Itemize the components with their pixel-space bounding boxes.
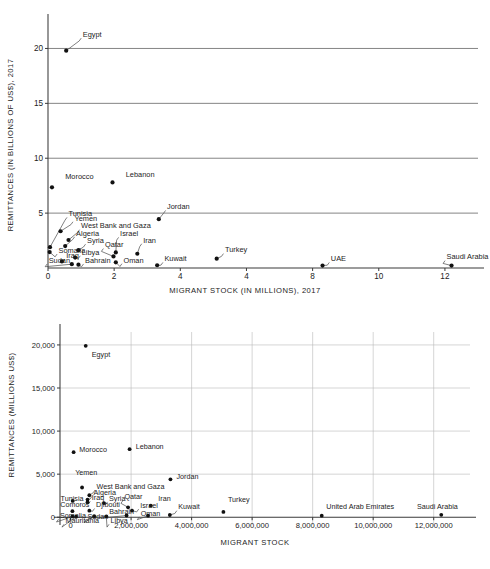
data-point-label: Iran: [143, 236, 156, 245]
data-point-label: Saudi Arabia: [417, 502, 458, 511]
data-point: [72, 450, 76, 454]
y-tick-label: 15: [34, 99, 44, 108]
data-point: [48, 250, 52, 254]
data-point-label: Turkey: [225, 245, 248, 254]
data-point-label: Iran: [158, 494, 170, 503]
x-tick-label: 12,000,000: [415, 521, 453, 530]
x-tick-label: 2: [112, 272, 117, 281]
data-point: [215, 257, 219, 261]
data-point-label: Turkey: [228, 495, 250, 504]
y-tick-label: 5,000: [36, 470, 55, 479]
data-point: [128, 447, 132, 451]
data-point: [449, 263, 453, 267]
data-point: [80, 486, 84, 490]
y-tick-label: 5: [38, 209, 43, 218]
leader-line: [61, 222, 73, 231]
top-gridlines: [48, 48, 478, 213]
data-point-label: Egypt: [92, 350, 110, 359]
x-tick-label: 4,000,000: [175, 521, 209, 530]
data-point: [76, 263, 80, 267]
data-point-label: United Arab Emirates: [326, 502, 394, 511]
x-tick-label: 8: [310, 272, 315, 281]
top-leader-lines: [45, 38, 451, 267]
data-point: [87, 493, 91, 497]
data-point: [110, 180, 114, 184]
data-point-label: Comoros: [60, 500, 90, 509]
y-tick-label: 20: [34, 44, 44, 53]
top-x-axis-title: MIGRANT STOCK (IN MILLIONS), 2017: [169, 286, 320, 295]
bottom-point-labels: EgyptMoroccoLebanonJordanYemenWest Bank …: [60, 350, 458, 526]
data-point: [114, 260, 118, 264]
data-point-label: Lebanon: [126, 170, 155, 179]
leader-line: [50, 217, 67, 247]
data-point-label: Syria: [87, 236, 105, 245]
data-point: [58, 229, 62, 233]
y-tick-label: 10: [34, 154, 44, 163]
data-point: [320, 263, 324, 267]
data-point-label: Oman: [141, 509, 161, 518]
y-tick-label: 10,000: [32, 427, 55, 436]
data-point-label: Israel: [120, 229, 138, 238]
data-point: [157, 217, 161, 221]
x-tick-label: 10,000,000: [354, 521, 392, 530]
data-point: [169, 477, 173, 481]
data-point-label: Bahrain: [85, 256, 110, 265]
x-tick-label: 4: [244, 272, 249, 281]
top-point-labels: EgyptMoroccoLebanonJordanTunisiaYemenWes…: [49, 30, 490, 265]
data-point-label: Kuwait: [164, 254, 186, 263]
bottom-scatter-svg: 02,000,0004,000,0006,000,0008,000,00010,…: [0, 300, 490, 569]
data-point-label: Jordan: [176, 472, 198, 481]
data-point-label: Yemen: [75, 468, 97, 477]
x-tick-label: 6,000,000: [235, 521, 269, 530]
x-tick-label: 4: [178, 272, 183, 281]
data-point: [168, 513, 172, 517]
data-point: [66, 238, 70, 242]
bottom-y-axis-title: REMITTANCES (MILLIONS US$): [7, 352, 16, 477]
top-y-axis-title: REMITTANCES (IN BILLIONS OF US$), 2017: [6, 59, 15, 232]
data-point: [84, 344, 88, 348]
data-point: [114, 250, 118, 254]
data-point-label: Morocco: [65, 172, 93, 181]
data-point-label: Mauritania: [65, 516, 99, 525]
data-point-label: Saudi Arabia: [447, 252, 490, 261]
data-point: [155, 263, 159, 267]
data-point-label: Qatar: [105, 240, 124, 249]
data-point-label: Jordan: [167, 202, 190, 211]
data-point-label: Egypt: [83, 30, 102, 39]
bottom-x-axis-title: MIGRANT STOCK: [221, 538, 290, 547]
x-tick-label: 0: [46, 272, 51, 281]
data-point-label: Bahrain: [109, 507, 134, 516]
data-point-label: Oman: [123, 256, 143, 265]
x-tick-label: 8,000,000: [296, 521, 330, 530]
data-point-label: Kuwait: [178, 502, 200, 511]
data-point: [48, 245, 52, 249]
data-point: [439, 513, 443, 517]
data-point-label: UAE: [331, 254, 346, 263]
data-point: [64, 49, 68, 53]
data-point: [111, 254, 115, 258]
data-point-label: Lebanon: [136, 442, 164, 451]
top-scatter-figure: 0244810125101520 EgyptMoroccoLebanonJord…: [0, 0, 490, 300]
data-point: [70, 262, 74, 266]
data-point: [50, 185, 54, 189]
y-tick-label: 15,000: [32, 384, 55, 393]
y-tick-label: 0: [51, 513, 55, 522]
x-tick-label: 12: [440, 272, 450, 281]
data-point-label: Morocco: [79, 445, 107, 454]
data-point: [221, 510, 225, 514]
data-point-label: Sudan: [49, 256, 70, 265]
y-tick-label: 20,000: [32, 341, 55, 350]
bottom-scatter-figure: 02,000,0004,000,0006,000,0008,000,00010,…: [0, 300, 490, 569]
top-scatter-svg: 0244810125101520 EgyptMoroccoLebanonJord…: [0, 0, 490, 300]
x-tick-label: 10: [374, 272, 384, 281]
data-point-label: Libya: [111, 516, 128, 525]
data-point: [320, 514, 324, 518]
